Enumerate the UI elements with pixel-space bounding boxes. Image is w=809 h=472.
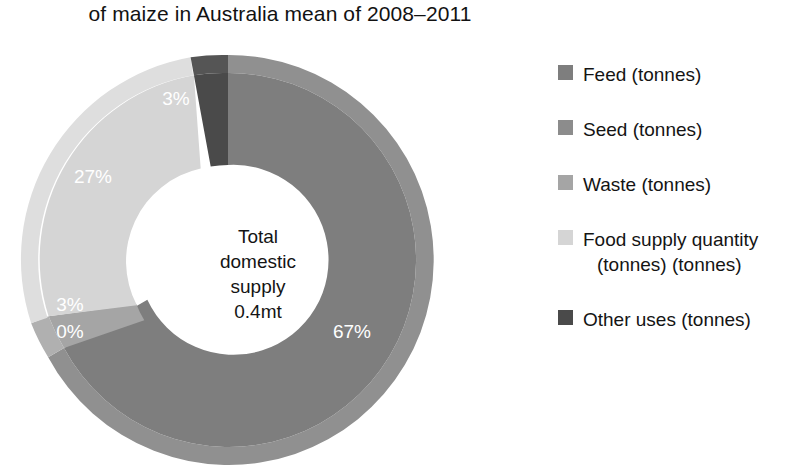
- legend-label-seed: Seed (tonnes): [583, 117, 702, 142]
- slice-label-seed: 0%: [56, 321, 84, 342]
- legend-label-waste: Waste (tonnes): [583, 172, 711, 197]
- slice-label-other-uses: 3%: [162, 88, 190, 109]
- center-line-3: supply: [170, 274, 346, 299]
- legend-item-food-supply[interactable]: Food supply quantity (tonnes) (tonnes): [558, 227, 806, 277]
- legend-label-food-supply-line2: (tonnes) (tonnes): [597, 252, 758, 277]
- legend-swatch-other-uses: [558, 310, 573, 325]
- legend-swatch-feed: [558, 65, 573, 80]
- legend-item-feed[interactable]: Feed (tonnes): [558, 62, 806, 87]
- legend-item-other-uses[interactable]: Other uses (tonnes): [558, 307, 806, 332]
- outer-ring-other-uses: [191, 55, 228, 75]
- legend-swatch-seed: [558, 120, 573, 135]
- center-line-1: Total: [170, 224, 346, 249]
- legend-label-food-supply-line1: Food supply quantity: [583, 229, 758, 250]
- center-line-2: domestic: [170, 249, 346, 274]
- legend-swatch-food-supply: [558, 230, 573, 245]
- slice-label-food-supply: 27%: [74, 166, 112, 187]
- legend-item-waste[interactable]: Waste (tonnes): [558, 172, 806, 197]
- legend-label-other-uses: Other uses (tonnes): [583, 307, 751, 332]
- legend-label-feed: Feed (tonnes): [583, 62, 701, 87]
- chart-legend: Feed (tonnes) Seed (tonnes) Waste (tonne…: [558, 62, 806, 362]
- chart-title: of maize in Australia mean of 2008–2011: [0, 0, 560, 28]
- legend-item-seed[interactable]: Seed (tonnes): [558, 117, 806, 142]
- slice-label-waste: 3%: [56, 294, 84, 315]
- center-line-4: 0.4mt: [170, 299, 346, 324]
- donut-center-label: Total domestic supply 0.4mt: [170, 224, 346, 324]
- legend-label-food-supply: Food supply quantity (tonnes) (tonnes): [583, 227, 758, 277]
- legend-swatch-waste: [558, 175, 573, 190]
- donut-chart: 3% 27% 3% 0% 67% Total domestic supply 0…: [18, 48, 458, 468]
- slice-label-feed: 67%: [333, 321, 371, 342]
